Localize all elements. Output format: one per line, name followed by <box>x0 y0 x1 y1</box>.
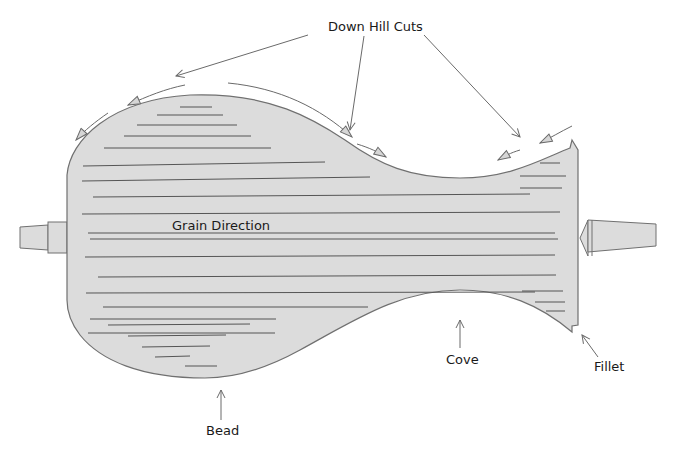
tailstock-live-center <box>580 220 656 256</box>
spindle-turning-diagram: Down Hill Cuts Grain Direction Bead Cove… <box>0 0 676 454</box>
fillet-pointer <box>582 335 598 357</box>
label-grain-direction: Grain Direction <box>172 218 270 233</box>
label-cove: Cove <box>446 352 479 367</box>
label-down-hill-cuts: Down Hill Cuts <box>328 19 423 34</box>
cut-arrow-5 <box>498 150 520 160</box>
cut-arrow-6 <box>540 126 572 143</box>
headstock-drive-center <box>20 222 67 253</box>
label-fillet: Fillet <box>594 359 624 374</box>
label-bead: Bead <box>206 423 239 438</box>
